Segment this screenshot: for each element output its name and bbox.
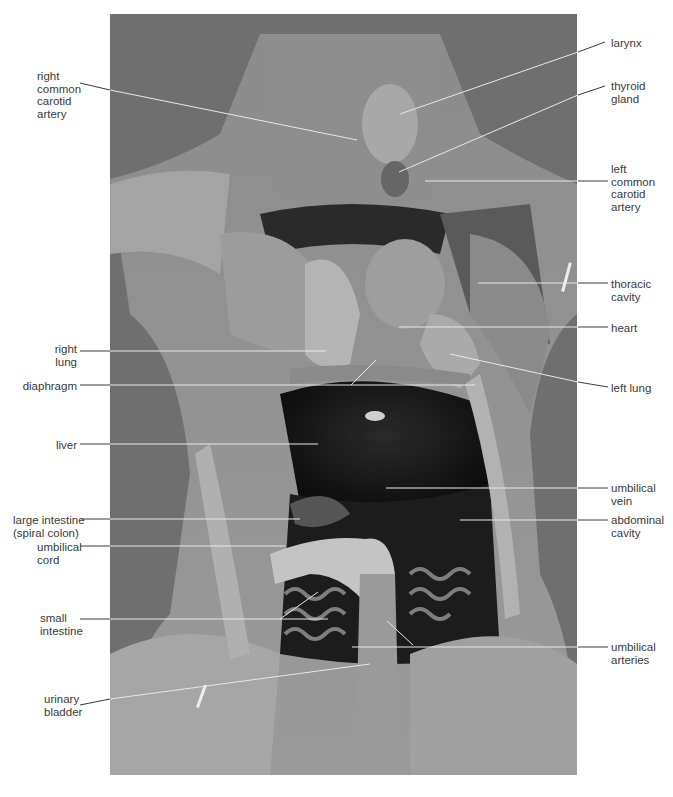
label-umbilical-arteries: umbilical arteries [611,641,656,666]
label-abdominal-cavity: abdominal cavity [611,514,664,539]
label-larynx: larynx [611,37,642,50]
label-large-intestine: large intestine (spiral colon) [13,514,85,539]
label-left-lung: left lung [611,382,651,395]
label-small-intestine: small intestine [40,612,83,637]
label-left-common-carotid-artery: left common carotid artery [611,163,655,213]
label-right-common-carotid-artery: right common carotid artery [37,70,81,120]
label-right-lung: right lung [55,343,77,368]
label-urinary-bladder: urinary bladder [44,693,82,718]
dissection-figure: right common carotid artery right lung d… [0,0,673,797]
label-diaphragm: diaphragm [23,380,77,393]
label-thyroid-gland: thyroid gland [611,80,646,105]
label-umbilical-cord: umbilical cord [37,541,82,566]
label-heart: heart [611,322,637,335]
label-thoracic-cavity: thoracic cavity [611,278,651,303]
label-liver: liver [56,439,77,452]
label-umbilical-vein: umbilical vein [611,482,656,507]
dissection-photo [110,14,577,775]
